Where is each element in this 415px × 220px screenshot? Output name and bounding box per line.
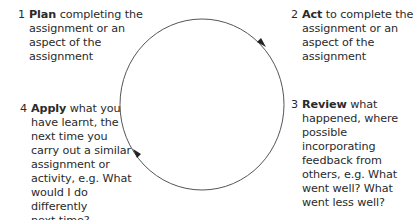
step-text: went less well?: [302, 196, 385, 209]
step-text: assignment or: [31, 158, 110, 171]
step-text: what you: [70, 102, 121, 115]
step-keyword: Act: [302, 8, 322, 21]
step-review: 3 Review what happened, where possible i…: [291, 98, 411, 210]
step-text: feedback from: [302, 154, 382, 167]
step-text: possible: [302, 126, 347, 139]
step-text: assignment or an: [302, 22, 398, 35]
step-text: went well? What: [302, 182, 393, 195]
step-text: next time?: [31, 214, 90, 220]
step-text: have learnt, the: [31, 116, 119, 129]
step-text: activity, e.g. What: [31, 172, 132, 185]
step-number: 3: [291, 98, 298, 112]
step-text: happened, where: [302, 112, 398, 125]
step-text: aspect of the: [302, 36, 374, 49]
step-keyword: Plan: [29, 8, 56, 21]
reflective-cycle-diagram: 1 Plan completing the assignment or an a…: [0, 0, 415, 220]
step-number: 2: [291, 8, 298, 22]
step-text: what: [350, 98, 377, 111]
step-apply: 4 Apply what you have learnt, the next t…: [20, 102, 140, 220]
step-text: completing the: [60, 8, 143, 21]
step-text: others, e.g. What: [302, 168, 397, 181]
step-act: 2 Act to complete the assignment or an a…: [291, 8, 415, 64]
step-text: incorporating: [302, 140, 376, 153]
step-number: 1: [18, 8, 25, 22]
step-keyword: Apply: [31, 102, 66, 115]
step-text: carry out a similar: [31, 144, 131, 157]
step-number: 4: [20, 102, 27, 116]
step-text: assignment: [29, 50, 93, 63]
step-plan: 1 Plan completing the assignment or an a…: [18, 8, 158, 64]
step-text: would I do differently: [31, 186, 88, 213]
step-keyword: Review: [302, 98, 347, 111]
step-text: to complete the: [326, 8, 413, 21]
step-text: aspect of the: [29, 36, 101, 49]
step-text: assignment: [302, 50, 366, 63]
step-text: assignment or an: [29, 22, 125, 35]
step-text: next time you: [31, 130, 107, 143]
